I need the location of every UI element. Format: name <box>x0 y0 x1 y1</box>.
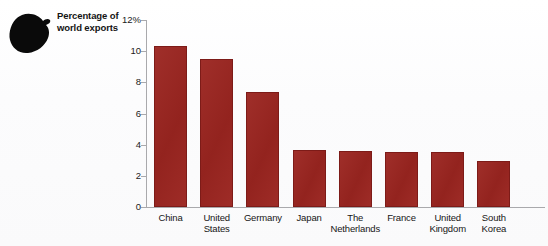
y-tick-label: 12% <box>96 15 141 25</box>
y-tick-label: 0 <box>96 202 141 212</box>
x-axis-line <box>146 207 545 208</box>
category-label-line: Korea <box>482 223 507 234</box>
category-label-line: United <box>203 212 230 223</box>
category-label-line: China <box>158 212 182 223</box>
y-tick-label-text: 8 <box>105 77 141 87</box>
category-label-line: South <box>482 212 506 223</box>
bar-united-states <box>200 59 233 207</box>
y-tick-mark <box>141 145 147 146</box>
y-tick-mark <box>141 176 147 177</box>
y-tick-mark <box>141 114 147 115</box>
category-label-south-korea: SouthKorea <box>464 212 524 234</box>
category-label-line: Kingdom <box>429 223 465 234</box>
bar-germany <box>246 92 279 207</box>
y-tick-label-text: 4 <box>105 140 141 150</box>
category-label-line: France <box>387 212 416 223</box>
y-tick-label-text: 12% <box>105 15 141 25</box>
y-tick-label-text: 0 <box>105 202 141 212</box>
y-tick-mark <box>141 207 147 208</box>
y-tick-mark <box>141 82 147 83</box>
y-tick-label-text: 10 <box>105 46 141 56</box>
bar-japan <box>293 150 326 207</box>
y-tick-label-text: 6 <box>105 109 141 119</box>
bar-united-kingdom <box>431 152 464 207</box>
y-tick-mark <box>141 20 147 21</box>
category-label-line: Germany <box>244 212 282 223</box>
y-tick-label: 10 <box>96 46 141 56</box>
bar-the-netherlands <box>339 151 372 207</box>
bar-south-korea <box>477 161 510 207</box>
y-tick-label: 4 <box>96 140 141 150</box>
category-label-line: United <box>434 212 461 223</box>
bar-china <box>154 46 187 207</box>
chart-page: Percentage of world exports 024681012% C… <box>0 0 548 246</box>
category-label-line: States <box>204 223 230 234</box>
y-tick-label: 2 <box>96 171 141 181</box>
category-label-line: Netherlands <box>331 223 381 234</box>
y-tick-label: 8 <box>96 77 141 87</box>
y-tick-label: 6 <box>96 109 141 119</box>
bar-chart-plot: 024681012% ChinaUnitedStatesGermanyJapan… <box>0 0 548 246</box>
category-label-line: The <box>347 212 363 223</box>
category-label-line: Japan <box>297 212 322 223</box>
y-tick-mark <box>141 51 147 52</box>
bar-france <box>385 152 418 207</box>
y-tick-label-text: 2 <box>105 171 141 181</box>
